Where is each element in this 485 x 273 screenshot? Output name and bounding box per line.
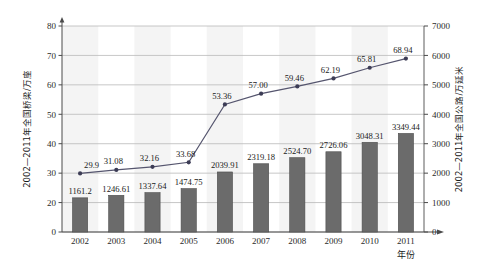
line-value-label: 59.46 [285,73,305,83]
chart-container: 0203040506070800100020003000400050006000… [0,0,485,273]
line-marker [150,165,154,169]
x-axis-arrow-icon [437,229,444,234]
left-axis-tick-label: 30 [47,168,57,178]
bar [326,152,341,232]
x-axis-tick-label: 2009 [325,236,344,246]
line-value-label: 31.08 [104,156,123,166]
x-axis-tick-label: 2008 [288,236,307,246]
bar [217,172,232,232]
bar-value-label: 2319.18 [247,152,275,162]
bar [362,142,377,232]
line-marker [114,168,118,172]
line-marker [295,84,299,88]
x-axis-tick-label: 2006 [216,236,235,246]
right-axis-tick-label: 5000 [432,80,451,90]
bar [145,193,160,232]
bar-value-label: 1474.75 [175,177,203,187]
line-value-label: 62.19 [321,65,340,75]
bar [253,164,268,232]
x-axis-tick-label: 2007 [252,236,271,246]
bar-value-label: 2726.06 [320,140,349,150]
x-axis-title: 年份 [397,249,415,260]
chart-canvas: 0203040506070800100020003000400050006000… [0,0,485,273]
right-axis-tick-label: 7000 [432,21,451,31]
left-axis-arrow-icon [60,17,65,23]
bar-value-label: 1246.61 [102,184,130,194]
x-axis-tick-label: 2004 [144,236,163,246]
bar [398,133,413,232]
line-marker [404,56,408,60]
bar [290,158,305,232]
left-axis-tick-label: 40 [47,139,57,149]
line-value-label: 57.00 [248,80,267,90]
x-axis-tick-label: 2011 [397,236,415,246]
right-axis-tick-label: 1000 [432,198,451,208]
bar [109,195,124,232]
left-axis-tick-label: 50 [47,110,57,120]
bar-value-label: 2039.91 [211,160,239,170]
right-axis-tick-label: 6000 [432,51,451,61]
line-marker [368,66,372,70]
right-axis-tick-label: 2000 [432,168,451,178]
x-axis-tick-label: 2010 [361,236,380,246]
line-value-label: 33.68 [176,149,195,159]
bar-value-label: 3048.31 [356,131,384,141]
line-value-label: 29.9 [84,160,99,170]
right-axis-title: 2002—2011年全国公路/万延米 [454,66,464,193]
bar-value-label: 1337.64 [139,181,168,191]
line-marker [187,160,191,164]
line-marker [259,92,263,96]
line-marker [331,76,335,80]
line-value-label: 65.81 [357,54,376,64]
x-axis-tick-label: 2005 [180,236,199,246]
left-axis-tick-label: 20 [47,198,57,208]
bar [181,189,196,232]
bar-value-label: 2524.70 [283,146,311,156]
right-axis-tick-label: 0 [432,227,437,237]
left-axis-tick-label: 80 [47,21,57,31]
line-marker [78,171,82,175]
line-value-label: 53.36 [212,91,232,101]
left-axis-tick-label: 70 [47,51,57,61]
bar-value-label: 3349.44 [392,122,421,132]
left-axis-tick-label: 60 [47,80,57,90]
x-axis-tick-label: 2002 [71,236,89,246]
x-axis-tick-label: 2003 [107,236,126,246]
left-axis-title: 2002—2011年全国桥梁/万座 [22,70,32,188]
line-value-label: 68.94 [393,45,413,55]
right-axis-tick-label: 3000 [432,139,451,149]
bar [72,198,87,232]
right-axis-tick-label: 4000 [432,110,451,120]
bar-value-label: 1161.2 [68,186,91,196]
line-value-label: 32.16 [140,153,160,163]
left-axis-tick-label: 0 [52,227,57,237]
line-marker [223,102,227,106]
